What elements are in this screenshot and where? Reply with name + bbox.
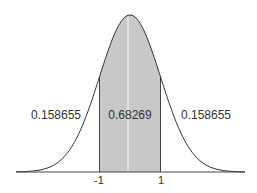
- tick-label-minus-one: -1: [94, 174, 104, 186]
- normal-distribution-chart: 0.158655 0.68269 0.158655 -1 1: [0, 0, 257, 193]
- left-tail-probability-label: 0.158655: [31, 108, 81, 122]
- center-probability-label: 0.68269: [108, 108, 152, 122]
- right-tail-probability-label: 0.158655: [181, 108, 231, 122]
- shaded-area-one-sigma: [100, 15, 161, 172]
- tick-label-plus-one: 1: [158, 174, 164, 186]
